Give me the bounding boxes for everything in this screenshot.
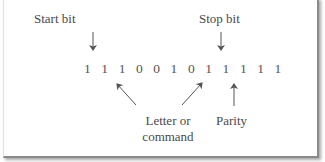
- letter-left-arrow: [117, 84, 136, 105]
- letter-right-arrow: [182, 83, 202, 105]
- arrows-layer: [0, 0, 325, 162]
